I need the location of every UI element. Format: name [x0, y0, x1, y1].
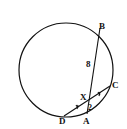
geometry-diagram: B C D A X 8 2 [0, 0, 127, 129]
label-x: X [80, 92, 87, 102]
chord-ba [87, 28, 100, 114]
label-d: D [59, 116, 66, 126]
label-length-bx: 8 [86, 59, 91, 69]
label-a: A [83, 116, 90, 126]
label-length-xa: 2 [88, 103, 92, 112]
label-b: B [99, 21, 105, 31]
label-c: C [112, 80, 119, 90]
